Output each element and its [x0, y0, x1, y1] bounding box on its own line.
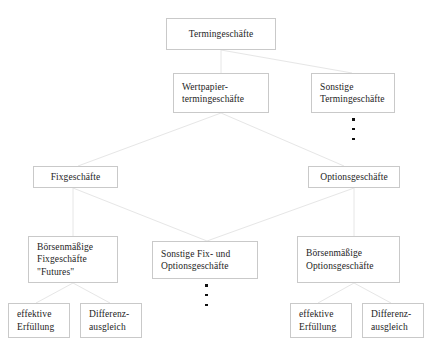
node-label: effektive Erfüllung [9, 308, 59, 333]
node-label: Börsenmäßige Fixgeschäfte "Futures" [29, 241, 98, 279]
node-optionsgeschaefte[interactable]: Optionsgeschäfte [308, 166, 400, 188]
edge-boersenfix-to-differenz [73, 283, 110, 303]
node-sonstige-termingeschaefte[interactable]: Sonstige Termingeschäfte [311, 73, 395, 113]
edge-termin-to-sonstige [221, 50, 352, 73]
edge-fix-to-sonstigefixopt [73, 188, 207, 241]
node-boersenmaessige-optionsgeschaefte[interactable]: Börsenmäßige Optionsgeschäfte [297, 236, 400, 283]
node-label: Sonstige Fix- und Optionsgeschäfte [153, 248, 235, 273]
node-effektive-erfuellung-right[interactable]: effektive Erfüllung [290, 303, 352, 338]
edge-wertpapier-to-optionen [221, 113, 344, 166]
node-termingeschaefte[interactable]: Termingeschäfte [166, 18, 276, 50]
node-differenzausgleich-right[interactable]: Differenz- ausgleich [362, 303, 424, 338]
node-label: Termingeschäfte [184, 28, 259, 41]
ellipsis-sonstige-termingeschaefte [352, 118, 355, 140]
node-label: Optionsgeschäfte [315, 171, 393, 184]
tree-diagram: Termingeschäfte Wertpapier- termingeschä… [0, 0, 443, 354]
node-sonstige-fix-und-optionsgeschaefte[interactable]: Sonstige Fix- und Optionsgeschäfte [152, 241, 258, 279]
node-label: Differenz- ausgleich [363, 308, 416, 333]
edge-wertpapier-to-fix [78, 113, 221, 166]
ellipsis-sonstige-fix-und-optionsgeschaefte [205, 284, 208, 306]
edge-boersenopt-to-effektiv [318, 283, 354, 303]
edge-boersenfix-to-effektiv [36, 283, 73, 303]
node-label: Wertpapier- termingeschäfte [174, 81, 249, 106]
node-label: Differenz- ausgleich [81, 308, 134, 333]
edge-optionen-to-sonstigefixopt [207, 188, 354, 241]
node-fixgeschaefte[interactable]: Fixgeschäfte [33, 166, 118, 188]
ellipsis-dot [352, 128, 355, 131]
node-label: Sonstige Termingeschäfte [312, 81, 390, 106]
node-label: Börsenmäßige Optionsgeschäfte [298, 247, 379, 272]
node-differenzausgleich-left[interactable]: Differenz- ausgleich [80, 303, 142, 338]
ellipsis-dot [205, 304, 208, 307]
ellipsis-dot [205, 294, 208, 297]
ellipsis-dot [352, 118, 355, 121]
ellipsis-dot [352, 138, 355, 141]
ellipsis-dot [205, 284, 208, 287]
node-label: Fixgeschäfte [46, 171, 106, 184]
node-label: effektive Erfüllung [291, 308, 341, 333]
node-boersenmaessige-fixgeschaefte[interactable]: Börsenmäßige Fixgeschäfte "Futures" [28, 236, 118, 283]
node-effektive-erfuellung-left[interactable]: effektive Erfüllung [8, 303, 70, 338]
edge-boersenopt-to-differenz [354, 283, 391, 303]
node-wertpapiertermingeschaefte[interactable]: Wertpapier- termingeschäfte [173, 73, 269, 113]
